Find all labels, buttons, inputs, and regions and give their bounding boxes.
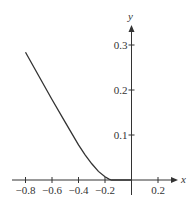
axes	[12, 25, 178, 195]
y-axis-arrow-icon	[129, 25, 135, 32]
x-tick-label: −0.2	[95, 184, 115, 196]
y-tick-label: 0.3	[114, 39, 128, 51]
x-tick-label: −0.8	[16, 184, 36, 196]
y-axis-label: y	[127, 10, 133, 22]
y-tick-label: 0.1	[114, 129, 128, 141]
x-tick-label: −0.4	[69, 184, 89, 196]
x-tick-label: −0.6	[42, 184, 62, 196]
x-axis-label: x	[180, 173, 186, 185]
ticks: −0.8−0.6−0.4−0.20.20.10.20.3	[16, 39, 165, 196]
y-tick-label: 0.2	[114, 84, 128, 96]
x-tick-label: 0.2	[151, 184, 165, 196]
chart: −0.8−0.6−0.4−0.20.20.10.20.3 x y	[0, 0, 195, 203]
x-axis-arrow-icon	[171, 177, 178, 183]
data-curve	[26, 52, 132, 180]
